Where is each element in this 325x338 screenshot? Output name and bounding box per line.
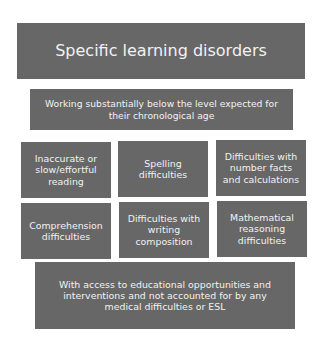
- difficulty-text: Mathematical reasoning difficulties: [230, 212, 294, 246]
- exclusion-text: With access to educational opportunities…: [59, 279, 271, 313]
- difficulty-text: Comprehension difficulties: [29, 220, 103, 243]
- difficulty-text: Difficulties with writing composition: [128, 213, 200, 247]
- exclusion-box: With access to educational opportunities…: [35, 262, 295, 329]
- difficulty-box-math-reasoning: Mathematical reasoning difficulties: [217, 201, 307, 257]
- difficulty-box-comprehension: Comprehension difficulties: [21, 203, 111, 259]
- difficulty-box-number-facts: Difficulties with number facts and calcu…: [216, 140, 306, 196]
- difficulty-text: Spelling difficulties: [139, 158, 187, 181]
- criterion-box: Working substantially below the level ex…: [30, 89, 293, 130]
- title-text: Specific learning disorders: [55, 41, 267, 60]
- title-box: Specific learning disorders: [17, 23, 305, 79]
- difficulty-box-reading: Inaccurate or slow/effortful reading: [21, 142, 111, 198]
- difficulty-text: Difficulties with number facts and calcu…: [223, 151, 299, 185]
- difficulty-box-spelling: Spelling difficulties: [118, 141, 208, 197]
- difficulty-text: Inaccurate or slow/effortful reading: [35, 153, 97, 187]
- difficulty-box-writing: Difficulties with writing composition: [119, 202, 209, 258]
- criterion-text: Working substantially below the level ex…: [45, 98, 278, 120]
